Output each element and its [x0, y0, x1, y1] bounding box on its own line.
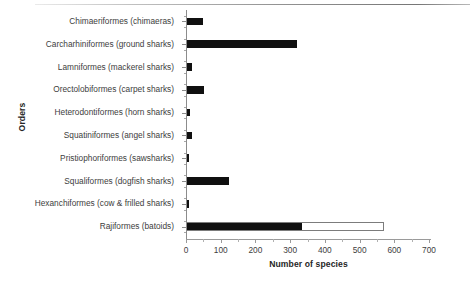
category-label-hexanchiformes: Hexanchiformes (cow & frilled sharks) — [35, 192, 174, 215]
bar-chimaeriformes — [187, 18, 203, 26]
category-label-squaliformes: Squaliformes (dogfish sharks) — [64, 170, 174, 193]
bar-heterodontiformes — [187, 109, 190, 117]
xtick-400: 400 — [318, 245, 332, 255]
category-label-orectolobiformes: Orectolobiformes (carpet sharks) — [53, 78, 174, 101]
xtick-700: 700 — [422, 245, 436, 255]
bar-lamniformes — [187, 63, 192, 71]
bar-orectolobiformes — [187, 86, 204, 94]
bar-squaliformes — [187, 177, 229, 185]
xtick-500: 500 — [353, 245, 367, 255]
category-label-chimaeriformes: Chimaeriformes (chimaeras) — [69, 10, 174, 33]
category-label-carcharhiniformes: Carcharhiniformes (ground sharks) — [46, 33, 174, 56]
bar-pristiophoriformes — [187, 154, 189, 162]
bar-series — [187, 10, 431, 238]
category-label-rajiformes: Rajiformes (batoids) — [100, 215, 174, 238]
xtick-100: 100 — [214, 245, 228, 255]
category-label-squatiniformes: Squatiniformes (angel sharks) — [64, 124, 174, 147]
xtick-300: 300 — [283, 245, 297, 255]
xtick-200: 200 — [248, 245, 262, 255]
bar-rajiformes-filled — [187, 223, 302, 231]
xtick-0: 0 — [184, 245, 189, 255]
category-label-lamniformes: Lamniformes (mackerel sharks) — [58, 56, 174, 79]
x-axis-title: Number of species — [186, 259, 431, 269]
species-by-order-bar-chart: Chimaeriformes (chimaeras) Carcharhinifo… — [0, 0, 470, 282]
xtick-600: 600 — [387, 245, 401, 255]
y-axis-title: Orders — [17, 87, 27, 147]
bar-squatiniformes — [187, 132, 192, 140]
bar-hexanchiformes — [187, 200, 189, 208]
category-axis-labels: Chimaeriformes (chimaeras) Carcharhinifo… — [0, 10, 180, 238]
category-label-heterodontiformes: Heterodontiformes (horn sharks) — [55, 101, 174, 124]
category-label-pristiophoriformes: Pristiophoriformes (sawsharks) — [60, 147, 174, 170]
bar-carcharhiniformes — [187, 40, 297, 48]
